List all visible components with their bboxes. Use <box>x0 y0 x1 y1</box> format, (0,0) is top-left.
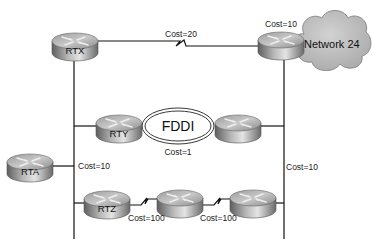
cost-label-fddi: Cost=1 <box>164 147 191 157</box>
serial-link-rtx <box>98 40 258 46</box>
cost-label-rtx-serial: Cost=20 <box>165 29 197 39</box>
serial-link-rtz-2 <box>203 198 231 205</box>
router-network24 <box>258 32 304 60</box>
cost-label-network24: Cost=10 <box>265 19 297 29</box>
cost-label-rtz-serial-2: Cost=100 <box>200 213 237 223</box>
cost-label-right-lan: Cost=10 <box>286 162 318 172</box>
router-rty-label: RTY <box>110 128 129 139</box>
fddi-label: FDDI <box>162 118 195 134</box>
network-diagram: Network 24 FDDI RTX RTY RTA RTZ Cost=20 … <box>0 0 372 251</box>
fddi-ring: FDDI <box>142 108 214 144</box>
router-rta: RTA <box>7 154 53 182</box>
router-rtz-right <box>230 190 276 218</box>
router-fddi-right <box>215 115 261 143</box>
router-rtz: RTZ <box>84 191 130 219</box>
network-24-cloud: Network 24 <box>296 11 371 71</box>
router-rtz-label: RTZ <box>98 203 116 214</box>
router-rta-label: RTA <box>21 166 40 177</box>
router-rty: RTY <box>96 115 142 143</box>
cost-label-left-lan: Cost=10 <box>78 161 110 171</box>
network-24-label: Network 24 <box>304 38 360 50</box>
router-rtx-label: RTX <box>66 45 85 56</box>
router-rtx: RTX <box>52 33 98 61</box>
cost-label-rtz-serial-1: Cost=100 <box>128 213 165 223</box>
serial-link-rtz-1 <box>129 198 158 205</box>
